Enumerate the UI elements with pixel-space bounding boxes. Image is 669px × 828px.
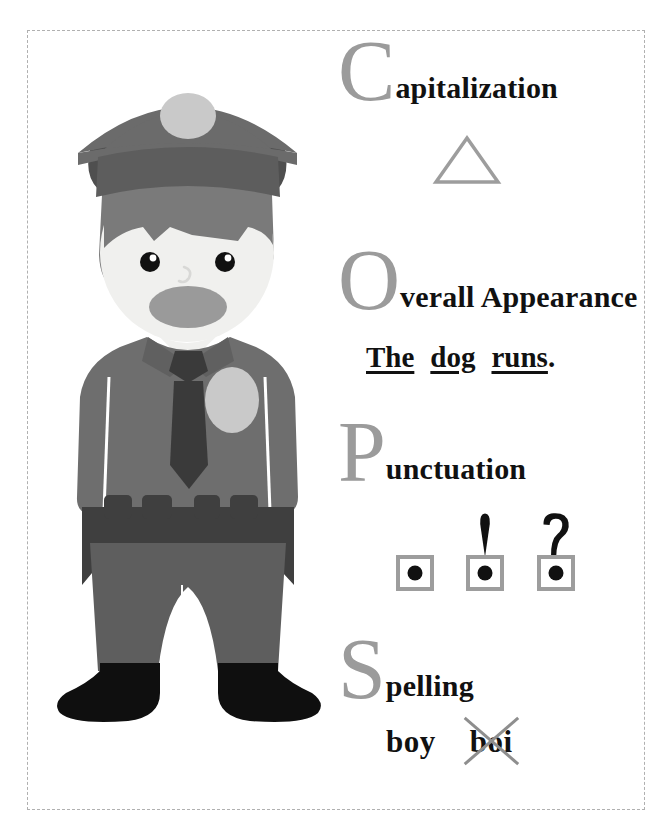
spelling-incorrect-word: boi (470, 724, 513, 759)
spelling-correct-word: boy (386, 724, 436, 759)
sentence-period: . (548, 341, 555, 373)
officer-chest-badge (205, 367, 259, 433)
acronym-word-punctuation: unctuation (386, 452, 526, 486)
belt-pouch-2 (142, 495, 172, 519)
acronym-block-capitalization: C apitalization (338, 38, 638, 105)
question-dot (549, 566, 564, 581)
cap-badge (160, 93, 216, 139)
question-box (537, 555, 575, 591)
spelling-incorrect-word-wrapper: boi (470, 724, 513, 760)
exclamation-dot (478, 566, 493, 581)
belt-pouch-3 (194, 495, 220, 519)
big-letter-s: S (338, 638, 386, 702)
officer-left-eye (140, 252, 160, 272)
acronym-block-overall-appearance: O verall Appearance Thedogruns. (338, 247, 638, 314)
punctuation-mark-exclamation (466, 511, 504, 591)
officer-left-eye-highlight (150, 255, 157, 262)
sentence-example: Thedogruns. (366, 341, 555, 374)
period-dot (408, 566, 423, 581)
question-hook-icon (537, 511, 575, 557)
officer-right-shoe (218, 663, 321, 722)
period-box (396, 555, 434, 591)
big-letter-o: O (338, 249, 400, 313)
acronym-word-spelling: pelling (386, 669, 474, 703)
big-letter-p: P (338, 421, 386, 485)
police-officer-illustration (42, 45, 332, 745)
triangle-shape-icon (432, 134, 502, 190)
acronym-heading-overall-appearance: O verall Appearance (338, 247, 638, 314)
belt-pouch-4 (230, 495, 258, 519)
acronym-heading-spelling: S pelling (338, 636, 638, 703)
acronym-heading-punctuation: P unctuation (338, 419, 638, 486)
cops-poster: C apitalization O verall Appearance Thed… (0, 0, 669, 828)
acronym-word-overall-appearance: verall Appearance (400, 280, 638, 314)
exclamation-box (466, 555, 504, 591)
punctuation-mark-question (537, 511, 575, 591)
acronym-block-punctuation: P unctuation (338, 419, 638, 486)
sentence-word-dog: dog (430, 341, 475, 373)
acronym-block-spelling: S pelling boyboi (338, 636, 638, 703)
acronym-heading-capitalization: C apitalization (338, 38, 638, 105)
officer-left-shoe (57, 663, 160, 722)
punctuation-mark-period (396, 511, 434, 591)
sentence-word-runs: runs (491, 341, 547, 373)
sentence-word-the: The (366, 341, 414, 373)
acronym-column: C apitalization O verall Appearance Thed… (338, 38, 638, 783)
officer-mouth (149, 286, 227, 328)
acronym-word-capitalization: apitalization (395, 71, 558, 105)
spelling-examples: boyboi (386, 724, 513, 760)
big-letter-c: C (338, 40, 395, 104)
exclamation-stroke-icon (466, 511, 504, 557)
belt-pouch-1 (104, 495, 132, 519)
officer-right-eye (215, 252, 235, 272)
officer-right-eye-highlight (225, 255, 232, 262)
punctuation-examples (396, 511, 606, 591)
